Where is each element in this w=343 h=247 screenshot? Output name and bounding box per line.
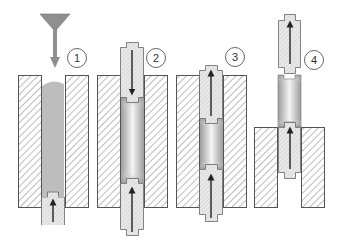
svg-text:1: 1 bbox=[74, 52, 80, 64]
step-badge-1: 1 bbox=[68, 49, 87, 68]
funnel-icon bbox=[40, 14, 70, 68]
step-1: 1 bbox=[19, 14, 89, 225]
die-wall-left bbox=[19, 76, 42, 208]
step-badge-3: 3 bbox=[226, 48, 245, 67]
svg-text:4: 4 bbox=[311, 54, 317, 66]
die-wall-left bbox=[255, 128, 278, 208]
step-badge-2: 2 bbox=[147, 49, 166, 68]
compact bbox=[278, 75, 301, 127]
step-4: 4 bbox=[255, 15, 325, 208]
die-wall-right bbox=[66, 76, 89, 208]
powder-compaction-diagram: 1 2 bbox=[0, 0, 343, 247]
compact bbox=[121, 97, 144, 183]
die-wall-left bbox=[98, 76, 121, 208]
powder-fill bbox=[42, 81, 64, 196]
die-wall-right bbox=[145, 76, 168, 208]
die-wall-right bbox=[224, 76, 247, 208]
die-wall-right bbox=[302, 128, 325, 208]
die-wall-left bbox=[177, 76, 200, 208]
compact bbox=[200, 118, 223, 169]
svg-text:2: 2 bbox=[153, 52, 159, 64]
svg-text:3: 3 bbox=[232, 51, 238, 63]
step-2: 2 bbox=[98, 43, 168, 236]
step-3: 3 bbox=[177, 48, 247, 222]
step-badge-4: 4 bbox=[305, 51, 324, 70]
